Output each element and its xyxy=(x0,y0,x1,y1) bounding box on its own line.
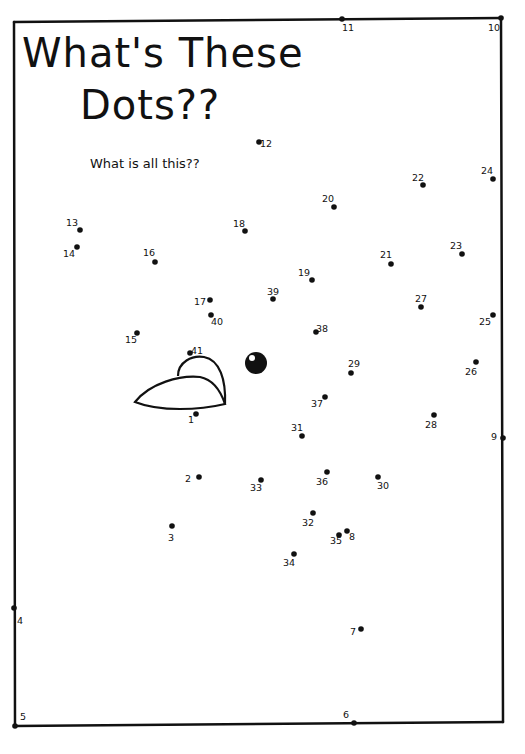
title-line-1: What's These xyxy=(22,30,304,76)
dot-37[interactable]: 37 xyxy=(311,394,328,409)
dot-number-label: 3 xyxy=(168,532,174,543)
dot-marker[interactable] xyxy=(339,16,345,22)
dot-marker[interactable] xyxy=(418,304,424,310)
dot-marker[interactable] xyxy=(331,204,337,210)
dot-number-label: 5 xyxy=(20,711,26,722)
dot-39[interactable]: 39 xyxy=(267,286,279,302)
dot-23[interactable]: 23 xyxy=(450,240,465,257)
dot-35[interactable]: 35 xyxy=(330,532,342,546)
dot-9[interactable]: 9 xyxy=(491,431,506,442)
dot-25[interactable]: 25 xyxy=(479,312,496,327)
dot-33[interactable]: 33 xyxy=(250,477,264,493)
dot-3[interactable]: 3 xyxy=(168,523,175,543)
dot-marker[interactable] xyxy=(299,433,305,439)
dot-29[interactable]: 29 xyxy=(348,358,360,376)
dot-34[interactable]: 34 xyxy=(283,551,297,568)
frame-line-right xyxy=(501,18,503,722)
dot-number-label: 20 xyxy=(322,193,334,204)
dot-marker[interactable] xyxy=(500,435,506,441)
dot-32[interactable]: 32 xyxy=(302,510,316,528)
dot-marker[interactable] xyxy=(348,370,354,376)
dot-7[interactable]: 7 xyxy=(350,626,364,637)
dot-15[interactable]: 15 xyxy=(125,330,140,345)
dot-number-label: 1 xyxy=(188,414,194,425)
puzzle-canvas: 1234567891011121314151617181920212223242… xyxy=(0,0,525,754)
dot-number-label: 37 xyxy=(311,398,323,409)
dot-4[interactable]: 4 xyxy=(11,605,23,626)
dot-27[interactable]: 27 xyxy=(415,293,427,310)
dot-marker[interactable] xyxy=(498,15,504,21)
dot-number-label: 8 xyxy=(349,531,355,542)
dot-marker[interactable] xyxy=(152,259,158,265)
dot-number-label: 30 xyxy=(377,480,389,491)
dot-marker[interactable] xyxy=(12,723,18,729)
dot-17[interactable]: 17 xyxy=(194,296,213,307)
dot-number-label: 11 xyxy=(342,22,354,33)
dot-8[interactable]: 8 xyxy=(344,528,355,542)
dot-marker[interactable] xyxy=(375,474,381,480)
dot-38[interactable]: 38 xyxy=(313,323,328,335)
dot-number-label: 7 xyxy=(350,626,356,637)
dot-20[interactable]: 20 xyxy=(322,193,337,210)
dot-marker[interactable] xyxy=(358,626,364,632)
dot-number-label: 38 xyxy=(316,323,328,334)
dot-28[interactable]: 28 xyxy=(425,412,437,430)
dot-number-label: 39 xyxy=(267,286,279,297)
subtitle: What is all this?? xyxy=(90,156,200,171)
dot-marker[interactable] xyxy=(490,176,496,182)
dot-marker[interactable] xyxy=(324,469,330,475)
dot-21[interactable]: 21 xyxy=(380,249,394,267)
dot-14[interactable]: 14 xyxy=(63,244,80,259)
dot-19[interactable]: 19 xyxy=(298,267,315,283)
dot-marker[interactable] xyxy=(431,412,437,418)
dot-2[interactable]: 2 xyxy=(185,473,202,484)
dot-number-label: 19 xyxy=(298,267,310,278)
dot-marker[interactable] xyxy=(351,720,357,726)
dot-number-label: 16 xyxy=(143,247,155,258)
dot-1[interactable]: 1 xyxy=(188,411,199,425)
dot-marker[interactable] xyxy=(11,605,17,611)
dot-number-label: 9 xyxy=(491,431,497,442)
dot-30[interactable]: 30 xyxy=(375,474,389,491)
dot-marker[interactable] xyxy=(169,523,175,529)
dot-13[interactable]: 13 xyxy=(66,217,83,233)
dot-number-label: 18 xyxy=(233,218,245,229)
dot-to-dot-puzzle-page: 1234567891011121314151617181920212223242… xyxy=(0,0,525,754)
dot-marker[interactable] xyxy=(473,359,479,365)
dot-marker[interactable] xyxy=(242,228,248,234)
dot-marker[interactable] xyxy=(77,227,83,233)
dot-marker[interactable] xyxy=(309,277,315,283)
dot-36[interactable]: 36 xyxy=(316,469,330,487)
dot-16[interactable]: 16 xyxy=(143,247,158,265)
dot-number-label: 33 xyxy=(250,482,262,493)
dot-marker[interactable] xyxy=(388,261,394,267)
dot-number-label: 17 xyxy=(194,296,206,307)
dot-40[interactable]: 40 xyxy=(208,312,223,327)
dot-number-label: 22 xyxy=(412,172,424,183)
title-line-2: Dots?? xyxy=(80,82,220,128)
dot-marker[interactable] xyxy=(420,182,426,188)
dot-marker[interactable] xyxy=(196,474,202,480)
dot-marker[interactable] xyxy=(270,296,276,302)
dot-number-label: 2 xyxy=(185,473,191,484)
dot-24[interactable]: 24 xyxy=(481,165,496,182)
dot-number-label: 21 xyxy=(380,249,392,260)
dot-31[interactable]: 31 xyxy=(291,422,305,439)
dot-marker[interactable] xyxy=(459,251,465,257)
dot-number-label: 10 xyxy=(488,22,500,33)
dot-number-label: 14 xyxy=(63,248,75,259)
dot-marker[interactable] xyxy=(207,297,213,303)
dot-26[interactable]: 26 xyxy=(465,359,479,377)
dot-41[interactable]: 41 xyxy=(187,345,203,356)
beak-drawing xyxy=(135,357,225,409)
dot-marker[interactable] xyxy=(310,510,316,516)
dot-number-label: 25 xyxy=(479,316,491,327)
dot-number-label: 12 xyxy=(260,138,272,149)
dot-number-label: 35 xyxy=(330,535,342,546)
dot-12[interactable]: 12 xyxy=(256,138,272,149)
dot-18[interactable]: 18 xyxy=(233,218,248,234)
dot-22[interactable]: 22 xyxy=(412,172,426,188)
dot-number-label: 40 xyxy=(211,316,223,327)
dot-marker[interactable] xyxy=(291,551,297,557)
dot-number-label: 23 xyxy=(450,240,462,251)
